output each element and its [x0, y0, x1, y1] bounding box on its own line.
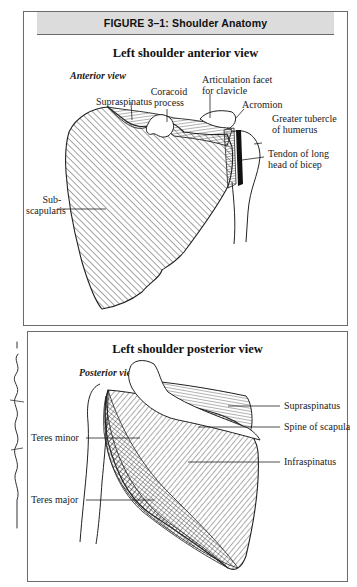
- label-spine-of-scapula: Spine of scapula: [284, 421, 350, 432]
- label-acromion: Acromion: [242, 99, 283, 110]
- label-supraspinatus-posterior: Supraspinatus: [284, 400, 340, 411]
- label-articulation-facet: Articulation facet for clavicle: [202, 74, 272, 96]
- label-biceps-tendon: Tendon of long head of bicep: [268, 148, 329, 170]
- label-subscapularis: Sub- scapularis: [26, 194, 64, 216]
- label-teres-major: Teres major: [31, 494, 78, 505]
- handwritten-signature-icon: [6, 340, 28, 530]
- posterior-view-panel: Left shoulder posterior view Posterior v…: [27, 331, 348, 582]
- label-infraspinatus: Infraspinatus: [284, 456, 336, 467]
- label-supraspinatus-anterior: Supraspinatus: [96, 96, 152, 107]
- anterior-view-panel: FIGURE 3–1: Shoulder Anatomy Left should…: [23, 11, 348, 326]
- label-greater-tubercle: Greater tubercle of humerus: [272, 113, 337, 135]
- label-teres-minor: Teres minor: [31, 432, 79, 443]
- label-coracoid-process: Coracoid process: [148, 86, 190, 108]
